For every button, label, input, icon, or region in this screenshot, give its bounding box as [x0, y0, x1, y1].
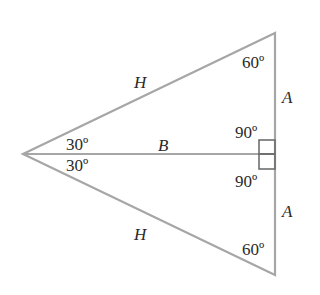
right-angle-marker-upper	[259, 140, 275, 154]
label-side-top: A	[281, 88, 293, 107]
triangle-diagram: H H B A A 60º 60º 30º 30º 90º 90º	[0, 0, 320, 295]
label-hyp-bottom: H	[133, 225, 148, 244]
label-angle-right-upper: 90º	[235, 123, 257, 142]
label-angle-right-lower: 90º	[235, 172, 257, 191]
label-angle-left-upper: 30º	[66, 135, 88, 154]
label-hyp-top: H	[133, 73, 148, 92]
right-angle-marker-lower	[259, 154, 275, 169]
triangle-svg: H H B A A 60º 60º 30º 30º 90º 90º	[0, 0, 320, 295]
label-side-bottom: A	[281, 202, 293, 221]
label-angle-top: 60º	[242, 53, 264, 72]
label-base: B	[158, 136, 169, 155]
label-angle-left-lower: 30º	[66, 156, 88, 175]
label-angle-bottom: 60º	[242, 240, 264, 259]
